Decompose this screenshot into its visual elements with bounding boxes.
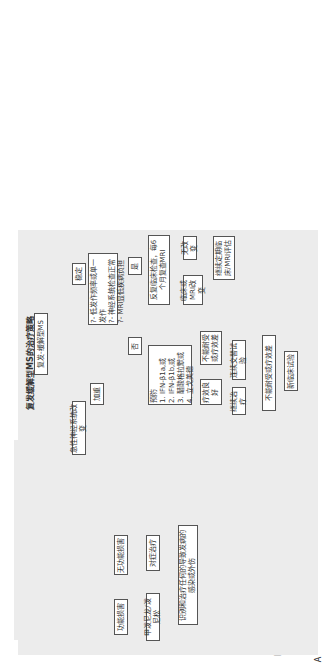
- panel-a-area: 复发缓解型MS的治疗策略 复发-缓解型MS 急性神经系统改变 加重 慢性加重 功…: [0, 0, 336, 666]
- panel-a-rotated: 复发缓解型MS的治疗策略 复发-缓解型MS 急性神经系统改变 加重 慢性加重 功…: [18, 230, 318, 655]
- a-worsen: 加重: [90, 383, 104, 405]
- a-stable: 稳定: [72, 263, 86, 285]
- a-no: 否: [128, 337, 142, 355]
- a-yes: 是: [128, 257, 142, 275]
- a-new-trial: 新临床试验: [284, 351, 298, 391]
- a-good-response: 疗效良好: [200, 379, 222, 405]
- a-prevention: 预防1. IFN-β1a,或2. IFN-β1b,或3. 醋酸格拉默或4. 立戈…: [148, 345, 192, 405]
- a-monitor: 反复临床检查，每6个月复查MRI: [148, 235, 170, 305]
- a-switch-trial: 连续交替试验: [232, 340, 246, 380]
- a-identify: 识别和治疗任何的导致发病的感染或外伤: [178, 525, 198, 625]
- a-no-change: 无改变: [183, 236, 197, 260]
- a-intolerant2: 不能耐受或疗效差: [262, 335, 276, 411]
- a-steroids: 甲泼尼龙/泼尼松: [146, 593, 160, 641]
- a-clinical-mri-change: 临床或MRI改变: [183, 275, 203, 305]
- panel-a-label: A: [314, 657, 323, 662]
- a-no-functional-disability: 无功能损害: [114, 535, 128, 575]
- a-root: 复发-缓解型MS: [34, 313, 48, 375]
- a-acute: 急性神经系统改变: [72, 401, 86, 455]
- a-functional-disability: 功能损害: [114, 599, 128, 635]
- a-continue-treatment: 继续治疗: [232, 387, 246, 415]
- a-intolerant: 不能耐受或疗效差: [200, 331, 222, 365]
- a-symptomatic: 对症治疗: [146, 535, 160, 571]
- a-criteria: ?- 低发作频率或单一发作?- 神经系统检查正常?- MRI显低疾病负担: [88, 253, 118, 325]
- a-continue-eval: 继续定期临床/MRI评估: [213, 236, 235, 280]
